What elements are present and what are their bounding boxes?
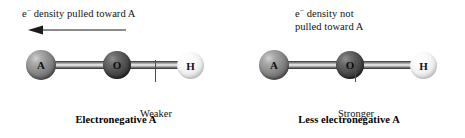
atom-h: H [410,52,437,79]
atom-o: O [103,51,131,79]
bond-leader-line-right [355,60,356,82]
chemistry-bond-polarity-figure: e− density pulled toward A A O H Weaker … [0,0,465,138]
atom-h: H [177,52,204,79]
atom-a: A [259,50,289,80]
bond-strength-label-right: Stronger bond [320,83,392,138]
bond-leader-line-left [155,60,156,82]
panel-caption-right: Less electronegative A [233,114,465,125]
panel-electronegative-a: e− density pulled toward A A O H Weaker … [0,0,232,138]
atom-a: A [26,50,56,80]
electron-density-shift-arrow-icon [28,25,126,35]
electron-density-annotation-left: e− density pulled toward A [22,8,135,21]
annotation-text-line-2: pulled toward A [295,21,363,32]
panel-less-electronegative-a: e− density notpulled toward A A O H Stro… [233,0,465,138]
bond-strength-label-left: Weaker bond [120,83,192,138]
molecule-left: A O H [0,48,232,82]
annotation-text-rest: density pulled toward A [31,8,135,19]
electron-density-annotation-right: e− density notpulled toward A [295,8,363,33]
molecule-right: A O H [233,48,465,82]
panel-caption-left: Electronegative A [0,114,232,125]
atom-o: O [336,51,364,79]
annotation-text-rest: density not [304,8,354,19]
